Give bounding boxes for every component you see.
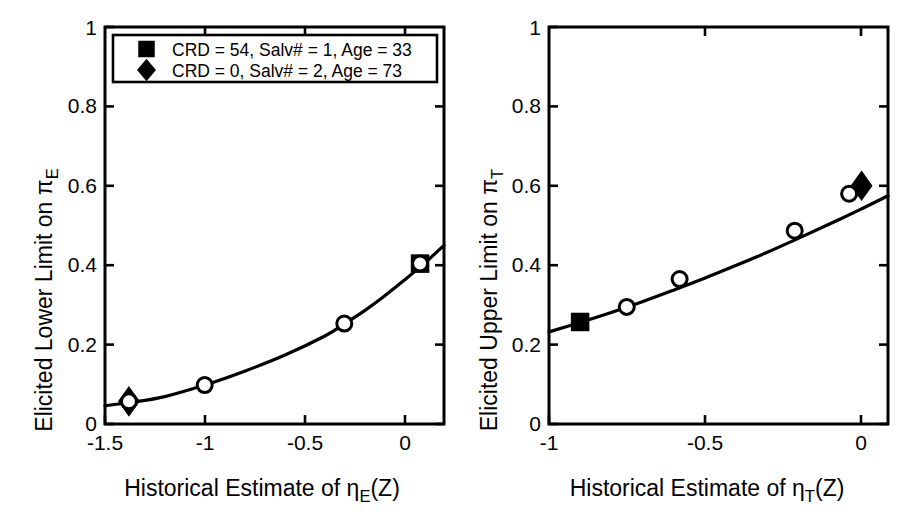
right-x-axis-label: Historical Estimate of ηT(Z) [570, 475, 845, 506]
y-tick-label: 1 [85, 16, 97, 39]
right-curve-group [549, 196, 888, 332]
x-tick-label: -1 [196, 431, 215, 454]
right-plot-svg: Elicited Upper Limit on πT Historical Es… [457, 0, 914, 520]
left-x-tick-labels: -1.5 -1 -0.5 0 [87, 431, 411, 454]
x-tick-label: -1 [540, 431, 559, 454]
x-tick-label: -0.5 [687, 431, 723, 454]
right-y-axis-label: Elicited Upper Limit on πT [476, 169, 507, 431]
right-plot-frame [549, 27, 888, 424]
data-point-circle-marker [413, 256, 428, 271]
left-x-ticks [105, 27, 405, 424]
left-plot-svg: Elicited Lower Limit on πE Historical Es… [0, 0, 457, 520]
x-tick-label: 0 [855, 431, 867, 454]
data-point-circle-marker [121, 394, 136, 409]
x-tick-label: -0.5 [287, 431, 323, 454]
fitted-curve [549, 196, 888, 332]
right-y-ticks [549, 27, 888, 424]
left-plot-frame [105, 27, 444, 424]
right-x-ticks [549, 27, 861, 424]
figure-root: Elicited Lower Limit on πE Historical Es… [0, 0, 914, 520]
legend-entry-label: CRD = 54, Salv# = 1, Age = 33 [172, 40, 412, 60]
right-y-tick-labels: 0 0.2 0.4 0.6 0.8 1 [512, 16, 542, 435]
panel-right: Elicited Upper Limit on πT Historical Es… [457, 0, 914, 520]
fitted-curve [105, 245, 444, 405]
right-markers-group [572, 172, 872, 331]
data-point-circle-marker [842, 186, 857, 201]
legend-square-icon [139, 42, 154, 57]
y-tick-label: 0.8 [512, 94, 541, 117]
y-tick-label: 0.4 [68, 253, 98, 276]
panel-left: Elicited Lower Limit on πE Historical Es… [0, 0, 457, 520]
y-tick-label: 0.6 [68, 174, 97, 197]
y-tick-label: 0.6 [512, 174, 541, 197]
legend-entry-label: CRD = 0, Salv# = 2, Age = 73 [172, 61, 402, 81]
data-point-circle-marker [672, 272, 687, 287]
y-tick-label: 1 [529, 16, 541, 39]
data-point-circle-marker [787, 223, 802, 238]
y-tick-label: 0.4 [512, 253, 542, 276]
left-y-ticks [105, 27, 444, 424]
data-point-circle-marker [197, 378, 212, 393]
left-y-tick-labels: 0 0.2 0.4 0.6 0.8 1 [68, 16, 98, 435]
right-x-tick-labels: -1 -0.5 0 [540, 431, 867, 454]
data-point-square-marker [572, 313, 589, 330]
legend: CRD = 54, Salv# = 1, Age = 33 CRD = 0, S… [113, 35, 437, 82]
data-point-circle-marker [337, 316, 352, 331]
left-x-axis-label: Historical Estimate of ηE(Z) [124, 475, 400, 506]
x-tick-label: -1.5 [87, 431, 123, 454]
x-tick-label: 0 [399, 431, 411, 454]
left-markers-group [119, 255, 429, 415]
data-point-circle-marker [619, 299, 634, 314]
left-curve-group [105, 245, 444, 405]
y-tick-label: 0.2 [512, 333, 541, 356]
left-y-axis-label: Elicited Lower Limit on πE [31, 168, 62, 431]
y-tick-label: 0.2 [68, 333, 97, 356]
y-tick-label: 0.8 [68, 94, 97, 117]
